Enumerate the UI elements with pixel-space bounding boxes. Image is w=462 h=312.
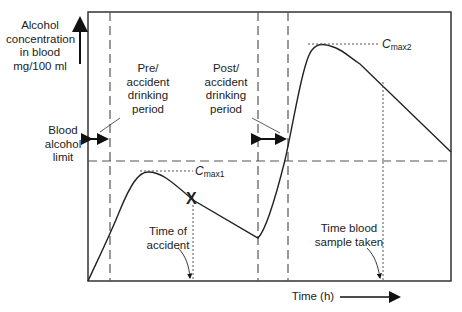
y-axis-label-line: Alcohol [6,19,74,33]
accident-label-line: Time of [140,225,196,239]
pre-accident-period-label: Pre/ accident drinking period [118,62,178,116]
post-accident-period-label: Post/ accident drinking period [196,62,256,116]
cmax2-subscript: max2 [391,42,412,52]
accident-marker: X [186,191,197,207]
accident-label-line: accident [140,239,196,253]
limit-label-line: alcohol [40,138,86,152]
sample-label-line: Time blood [306,222,392,236]
limit-label-line: limit [40,151,86,165]
time-blood-sample-label: Time blood sample taken [306,222,392,249]
time-of-accident-label: Time of accident [140,225,196,252]
post-period-label-line: accident [196,76,256,90]
pre-period-label-line: period [118,103,178,117]
blood-alcohol-limit-label: Blood alcohol limit [40,124,86,165]
sample-pointer-arrow-icon [367,248,380,278]
post-period-label-line: drinking [196,89,256,103]
pre-period-label-line: Pre/ [118,62,178,76]
y-axis-label-line: mg/100 ml [6,60,74,74]
y-axis-label-line: concentration [6,33,74,47]
post-period-leader-line [252,118,280,133]
post-period-label-line: period [196,103,256,117]
accident-pointer-arrow-icon [178,248,190,278]
y-axis-label-line: in blood [6,46,74,60]
y-axis-label: Alcohol concentration in blood mg/100 ml [6,19,74,73]
cmax1-subscript: max1 [204,169,225,179]
cmax2-label: Cmax2 [382,37,411,52]
cmax1-label: Cmax1 [195,164,224,179]
pre-period-label-line: drinking [118,89,178,103]
limit-label-line: Blood [40,124,86,138]
sample-label-line: sample taken [306,236,392,250]
cmax2-symbol: C [382,37,391,51]
cmax1-symbol: C [195,164,204,178]
post-period-label-line: Post/ [196,62,256,76]
pre-period-label-line: accident [118,76,178,90]
x-axis-label: Time (h) [288,290,338,304]
